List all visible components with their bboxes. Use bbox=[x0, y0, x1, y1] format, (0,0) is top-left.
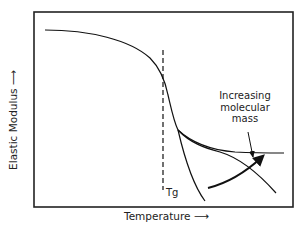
increasing-mass-arrow bbox=[208, 157, 262, 188]
intermediate-mass-branch bbox=[178, 130, 276, 193]
tg-label: Tg bbox=[166, 187, 178, 198]
x-axis-label: Temperature ⟶ bbox=[124, 210, 209, 222]
annotation-pointer-arrow bbox=[248, 132, 253, 157]
y-axis-label: Elastic Modulus ⟶ bbox=[3, 60, 23, 180]
annotation-line-1: Increasing bbox=[212, 90, 278, 102]
y-axis-label-text: Elastic Modulus ⟶ bbox=[7, 70, 19, 170]
annotation-line-2: molecular bbox=[212, 102, 278, 114]
main-modulus-curve bbox=[45, 30, 178, 130]
increasing-mass-annotation: Increasing molecular mass bbox=[212, 90, 278, 125]
annotation-line-3: mass bbox=[212, 113, 278, 125]
high-mass-branch bbox=[178, 130, 284, 153]
